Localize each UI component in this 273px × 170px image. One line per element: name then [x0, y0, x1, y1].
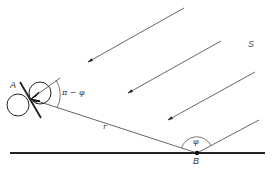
incoming-ray-2	[128, 41, 221, 93]
point-b-marker	[195, 151, 200, 156]
incoming-ray-1	[88, 8, 184, 62]
incoming-rays	[88, 8, 255, 120]
label-angle-a: π − φ	[62, 89, 85, 97]
axis-arrow-tip	[31, 92, 39, 99]
distance-line-r	[31, 99, 197, 153]
label-angle-b: φ	[193, 138, 199, 146]
reflected-ray	[197, 120, 259, 153]
lobe-left	[7, 94, 29, 116]
label-source-s: S	[248, 40, 254, 49]
label-point-a: A	[10, 81, 16, 90]
angle-arc-a	[56, 80, 60, 108]
diagram-canvas	[0, 0, 273, 170]
label-distance-r: r	[103, 123, 107, 131]
label-point-b: B	[193, 157, 199, 166]
incoming-ray-3	[168, 72, 255, 120]
